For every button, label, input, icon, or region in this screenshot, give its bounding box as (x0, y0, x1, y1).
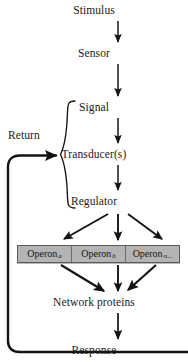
node-signal-label: Signal (79, 101, 109, 113)
operon-n-name: Operon (133, 249, 163, 259)
node-response: Response (0, 344, 188, 356)
operon-b-subscript: b (111, 251, 116, 261)
operon-cell-b: Operonb (72, 246, 126, 262)
node-return-label: Return (8, 129, 40, 141)
node-signal: Signal (0, 101, 188, 113)
node-regulator-label: Regulator (71, 195, 117, 207)
node-transducers: Transducer(s) (0, 148, 188, 160)
operon-n-subscript: n... (163, 251, 173, 261)
node-network-proteins-label: Network proteins (53, 296, 135, 308)
edge-regulator-to-operon-n (128, 214, 162, 239)
node-transducers-label: Transducer(s) (62, 148, 127, 160)
node-stimulus: Stimulus (0, 4, 188, 16)
node-sensor: Sensor (0, 47, 188, 59)
operon-a-subscript: a (57, 251, 62, 261)
edge-operon-n-to-network-proteins (128, 265, 156, 290)
operon-cell-n: Operonn... (126, 246, 179, 262)
node-regulator: Regulator (0, 195, 188, 207)
node-network-proteins: Network proteins (0, 296, 188, 308)
operon-cell-a: Operona (18, 246, 72, 262)
node-sensor-label: Sensor (78, 47, 110, 59)
operon-a-name: Operon (27, 249, 57, 259)
edge-operon-a-to-network-proteins (61, 265, 104, 291)
signal-transduction-diagram: Stimulus Sensor Signal Transducer(s) Reg… (0, 0, 188, 362)
operon-b-name: Operon (81, 249, 111, 259)
node-response-label: Response (72, 344, 117, 356)
node-stimulus-label: Stimulus (73, 4, 115, 16)
edge-regulator-to-operon-a (64, 214, 108, 239)
operon-box-group: Operona Operonb Operonn... (17, 245, 180, 263)
